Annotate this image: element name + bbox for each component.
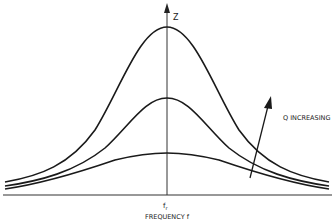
- x-axis-label: FREQUENCY f: [145, 213, 190, 221]
- center-frequency-label: fr: [163, 202, 168, 211]
- arrowhead-icon: [264, 96, 272, 109]
- annotation-label: Q INCREASING: [283, 114, 331, 122]
- resonance-diagram: Z Q INCREASING fr FREQUENCY f: [0, 0, 335, 223]
- y-axis-label: Z: [173, 13, 179, 22]
- y-axis-arrow-icon: [164, 3, 170, 13]
